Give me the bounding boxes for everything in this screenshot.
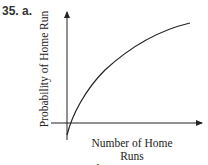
y-axis-label: Probability of Home Run [38, 11, 50, 128]
x-axis-label-line-2: by Home Team [82, 163, 182, 165]
x-axis-label-line-1: Number of Home Runs [82, 137, 182, 163]
x-axis-label: Number of Home Runs by Home Team [82, 137, 182, 165]
data-curve [67, 23, 190, 135]
